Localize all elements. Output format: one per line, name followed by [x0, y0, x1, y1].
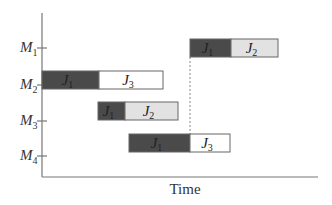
- task-m2-j1: J1: [42, 71, 99, 90]
- task-m1-j1: J1: [190, 39, 231, 58]
- machine-label-m3: M3: [19, 112, 38, 131]
- x-axis-label: Time: [169, 181, 200, 197]
- task-bars: J1J2J1J3J1J2J1J3: [42, 39, 278, 153]
- task-m3-j2: J2: [125, 102, 178, 121]
- task-m1-j2: J2: [231, 39, 278, 58]
- task-m4-j1: J1: [129, 134, 190, 153]
- machine-label-m1: M1: [19, 39, 38, 58]
- machine-label-m2: M2: [19, 76, 38, 95]
- machine-label-m4: M4: [19, 147, 38, 166]
- task-m2-j3: J3: [99, 71, 163, 90]
- machine-labels: M1M2M3M4: [19, 39, 38, 166]
- task-m4-j3: J3: [190, 134, 230, 153]
- gantt-chart: M1M2M3M4 J1J2J1J3J1J2J1J3 Time: [0, 0, 332, 205]
- task-m3-j1: J1: [98, 102, 125, 121]
